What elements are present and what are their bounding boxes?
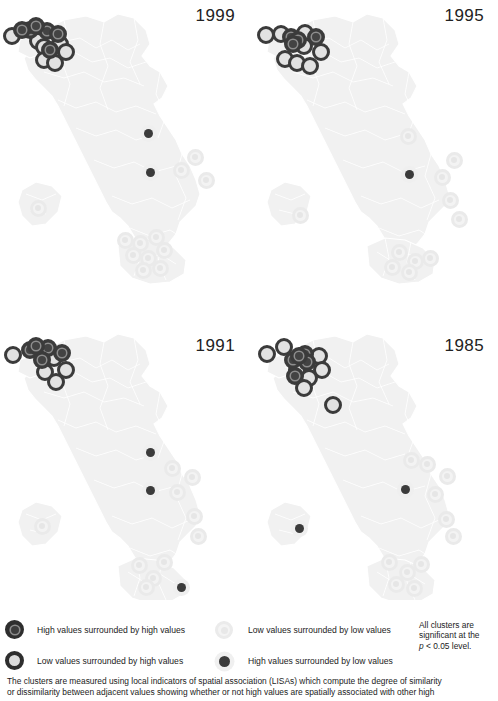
legend-low-high-icon [5,651,24,670]
marker-low-low [186,508,203,525]
significance-note-line1: All clusters are [419,620,497,630]
marker-high-low [146,168,155,177]
marker-low-low [419,456,436,473]
marker-low-low [190,528,207,545]
lisa-cluster-figure: 1999 [0,0,498,701]
p-threshold: < 0.05 level. [424,641,472,651]
marker-low-high [57,43,75,61]
legend-low-high-label: Low values surrounded by high values [37,656,183,667]
marker-low-low [156,242,173,259]
marker-low-low [384,259,401,276]
significance-note-line3: p < 0.05 level. [419,641,497,651]
marker-high-low [405,170,414,179]
significance-note: All clusters are significant at the p < … [419,620,497,651]
marker-low-low [439,468,456,485]
marker-high-low [401,485,410,494]
marker-low-high [301,57,319,75]
marker-low-low [422,250,439,267]
marker-high-high [286,367,304,385]
marker-low-low [184,469,201,486]
marker-low-low [445,528,462,545]
marker-low-high [4,346,22,364]
marker-low-high [324,396,342,414]
marker-low-low [381,554,398,571]
significance-note-line2: significant at the [419,630,497,640]
legend-high-low-icon [219,656,230,667]
marker-low-low [173,162,190,179]
legend-high-high-label: High values surrounded by high values [37,625,185,636]
marker-low-high [258,345,276,363]
marker-low-low [401,264,418,281]
marker-low-low [125,247,142,264]
marker-low-low [451,211,468,228]
marker-low-low [135,262,152,279]
marker-low-low [391,244,408,261]
marker-high-low [177,583,186,592]
marker-high-low [146,486,155,495]
marker-low-low [406,580,423,597]
map-panel-1995: 1995 [249,0,498,300]
marker-low-high [47,373,65,391]
marker-low-low [164,460,181,477]
marker-high-high [290,347,308,365]
legend-low-low-icon [215,621,233,639]
marker-low-low [117,232,134,249]
legend-high-low-label: High values surrounded by low values [248,656,393,667]
marker-low-low [434,169,451,186]
marker-low-low [34,518,51,535]
marker-low-low [187,149,204,166]
caption-line-1: The clusters are measured using local in… [7,676,493,687]
marker-low-low [292,207,309,224]
marker-low-low [427,486,444,503]
map-panel-1999: 1999 [0,0,249,300]
marker-high-high [41,41,59,59]
marker-low-low [442,192,459,209]
marker-low-low [446,152,463,169]
marker-low-low [30,200,47,217]
marker-low-low [198,172,215,189]
marker-high-low [146,448,155,457]
marker-high-low [144,129,153,138]
map-panel-1985: 1985 [249,300,498,600]
marker-low-low [438,511,455,528]
marker-high-high [307,28,325,46]
legend-high-high-icon [5,620,24,639]
figure-caption: The clusters are measured using local in… [7,676,493,698]
marker-high-high [27,337,45,355]
caption-line-2: or dissimilarity between adjacent values… [7,687,493,698]
map-panel-grid: 1999 [0,0,498,600]
legend-low-low-label: Low values surrounded by low values [248,625,391,636]
marker-low-low [413,556,430,573]
marker-high-high [53,344,71,362]
marker-high-high [284,35,302,53]
marker-low-low [388,576,405,593]
marker-low-low [152,260,169,277]
map-panel-1991: 1991 [0,300,249,600]
marker-low-low [156,554,173,571]
marker-high-low [295,524,304,533]
marker-low-low [131,557,148,574]
marker-low-low [169,484,186,501]
marker-low-low [400,128,417,145]
marker-low-low [138,579,155,596]
marker-low-low [403,452,420,469]
marker-high-high [13,21,31,39]
